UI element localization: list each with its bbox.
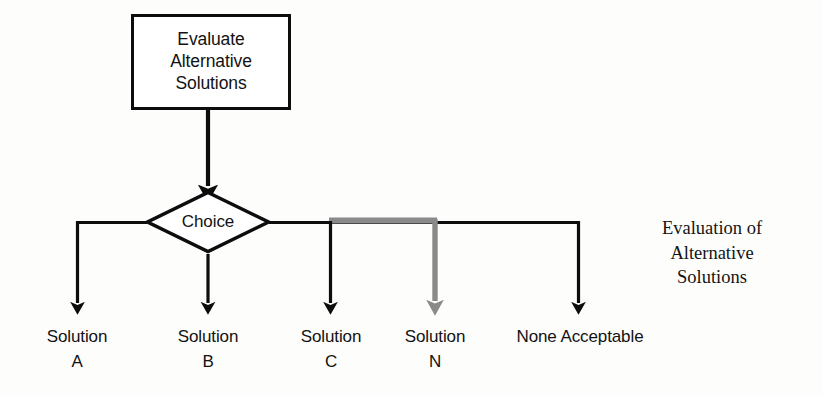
process-box-evaluate-alternative-solutions: Evaluate Alternative Solutions — [131, 14, 291, 110]
leaf-label-solution-c-line2: C — [271, 350, 391, 375]
leaf-label-solution-n: Solution N — [375, 325, 495, 374]
figure-caption: Evaluation of Alternative Solutions — [612, 216, 812, 290]
figure-caption-line-2: Alternative — [612, 241, 812, 266]
process-box-line-2: Alternative — [170, 51, 252, 73]
process-box-line-1: Evaluate — [177, 29, 244, 51]
leaf-label-solution-b: Solution B — [148, 325, 268, 374]
leaf-label-solution-a-line2: A — [17, 350, 137, 375]
process-box-line-3: Solutions — [175, 73, 246, 95]
leaf-label-solution-n-line1: Solution — [405, 327, 466, 346]
leaf-label-solution-b-line1: Solution — [178, 327, 239, 346]
leaf-label-solution-a-line1: Solution — [47, 327, 108, 346]
leaf-label-solution-b-line2: B — [148, 350, 268, 375]
diagram-canvas: Evaluate Alternative Solutions Choice So… — [0, 0, 822, 395]
figure-caption-line-3: Solutions — [612, 265, 812, 290]
leaf-label-none-acceptable-line1: None Acceptable — [516, 327, 643, 346]
leaf-label-solution-a: Solution A — [17, 325, 137, 374]
decision-label: Choice — [145, 190, 271, 254]
figure-caption-line-1: Evaluation of — [612, 216, 812, 241]
leaf-label-none-acceptable: None Acceptable — [495, 325, 665, 350]
leaf-label-solution-n-line2: N — [375, 350, 495, 375]
decision-diamond-choice: Choice — [145, 190, 271, 254]
leaf-label-solution-c-line1: Solution — [301, 327, 362, 346]
leaf-label-solution-c: Solution C — [271, 325, 391, 374]
